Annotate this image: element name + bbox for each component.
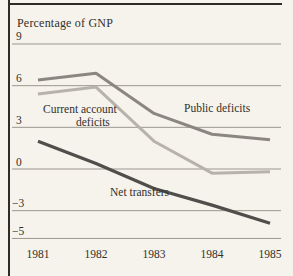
x-tick-label: 1985 <box>252 248 288 261</box>
annotation-label-net-transfers: Net transfers <box>110 186 169 199</box>
x-tick-label: 1982 <box>78 248 114 261</box>
y-tick-label: −3 <box>12 197 24 210</box>
x-tick-label: 1981 <box>20 248 56 261</box>
annotation-label-deficits: deficits <box>76 116 110 129</box>
y-tick-label: 3 <box>16 114 22 127</box>
y-tick-label: 9 <box>16 30 22 43</box>
x-tick-label: 1983 <box>136 248 172 261</box>
y-tick-label: 0 <box>16 156 22 169</box>
y-tick-label: −5 <box>12 225 24 238</box>
line-plot <box>0 0 293 276</box>
y-tick-label: 6 <box>16 72 22 85</box>
annotation-label-public-deficits: Public deficits <box>184 102 250 115</box>
x-tick-label: 1984 <box>194 248 230 261</box>
annotation-label-current-account: Current account <box>43 103 117 116</box>
figure-chart: Percentage of GNP 9630−3−5 1981198219831… <box>0 0 293 276</box>
series-line-current-account-deficits <box>38 87 270 173</box>
